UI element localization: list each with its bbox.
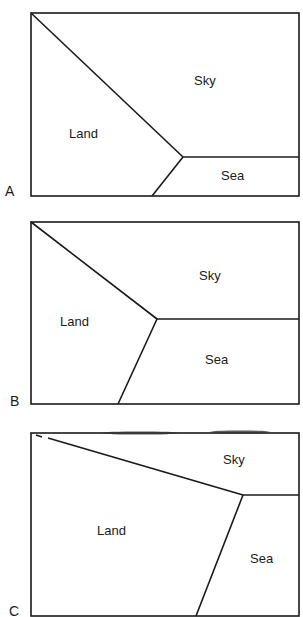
panel-c-frame: [31, 433, 299, 616]
panel-a-land-sky-boundary: [31, 13, 183, 157]
panel-a-land-label: Land: [69, 126, 98, 141]
panel-a-frame: [31, 13, 299, 196]
panel-b-land-label: Land: [60, 314, 89, 329]
panel-a-sea-label: Sea: [221, 168, 244, 183]
panel-label-a: A: [5, 183, 14, 199]
diagram-canvas: [0, 0, 303, 617]
panel-label-b: B: [10, 393, 19, 409]
panel-b: [31, 222, 299, 404]
smudge-mark: [102, 431, 178, 434]
panel-c-smudge-mark: [36, 435, 42, 437]
panel-a: [31, 13, 299, 196]
panel-c-land-sky-boundary: [48, 438, 243, 495]
panel-c-sky-label: Sky: [223, 452, 245, 467]
panel-c-sea-label: Sea: [250, 551, 273, 566]
panel-a-land-sea-boundary: [152, 157, 183, 196]
panel-c: [31, 433, 299, 616]
panel-b-land-sky-boundary: [31, 222, 157, 319]
panel-c-land-sea-boundary: [196, 495, 243, 616]
panel-b-frame: [31, 222, 299, 404]
panel-b-land-sea-boundary: [118, 319, 157, 404]
panel-label-c: C: [9, 603, 19, 617]
smudge-mark: [210, 430, 270, 433]
panel-a-sky-label: Sky: [194, 73, 216, 88]
panel-b-sea-label: Sea: [205, 352, 228, 367]
panel-c-land-label: Land: [97, 523, 126, 538]
panel-b-sky-label: Sky: [199, 268, 221, 283]
